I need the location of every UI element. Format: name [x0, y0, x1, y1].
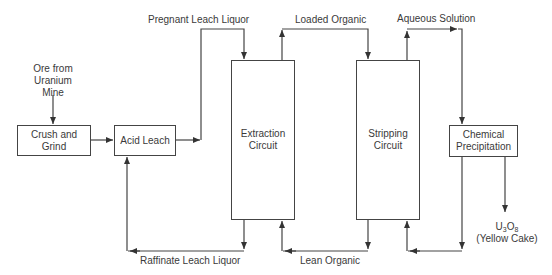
extraction-line2: Circuit	[241, 140, 285, 152]
u3o8-formula: U3O8	[472, 221, 542, 233]
stripping-line1: Stripping	[368, 128, 407, 140]
loaded-organic-label: Loaded Organic	[295, 14, 366, 26]
yellow-cake-label: (Yellow Cake)	[472, 233, 542, 245]
precipitation-line1: Chemical	[456, 129, 511, 141]
crush-and-grind-box: Crush and Grind	[17, 125, 91, 156]
extraction-circuit-box: Extraction Circuit	[231, 60, 295, 220]
stripping-circuit-box: Stripping Circuit	[356, 60, 420, 220]
aqueous-solution-label: Aqueous Solution	[397, 13, 475, 25]
precipitation-line2: Precipitation	[456, 141, 511, 153]
extraction-line1: Extraction	[241, 128, 285, 140]
pregnant-leach-liquor-label: Pregnant Leach Liquor	[148, 14, 249, 26]
raffinate-leach-liquor-label: Raffinate Leach Liquor	[140, 255, 240, 267]
stripping-line2: Circuit	[368, 140, 407, 152]
crush-and-grind-label: Crush and Grind	[18, 129, 90, 153]
acid-leach-label: Acid Leach	[120, 135, 169, 147]
ore-source-label: Ore from Uranium Mine	[20, 63, 86, 99]
ore-line1: Ore from	[20, 63, 86, 75]
product-label: U3O8 (Yellow Cake)	[472, 221, 542, 245]
chemical-precipitation-box: Chemical Precipitation	[449, 125, 518, 157]
ore-line2: Uranium	[20, 75, 86, 87]
ore-line3: Mine	[20, 87, 86, 99]
lean-organic-label: Lean Organic	[300, 255, 360, 267]
acid-leach-box: Acid Leach	[114, 125, 176, 156]
